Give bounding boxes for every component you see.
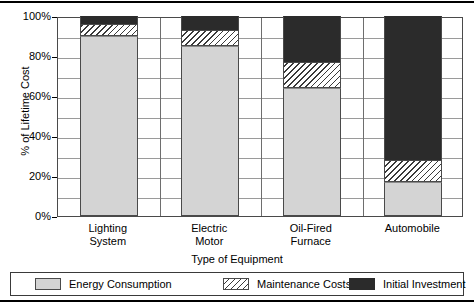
chart-legend: Energy ConsumptionMaintenance CostsIniti… <box>10 272 464 296</box>
legend-label: Maintenance Costs <box>257 278 351 290</box>
legend-label: Energy Consumption <box>69 278 172 290</box>
legend-item-init[interactable]: Initial Investment <box>349 277 466 291</box>
category-separator <box>160 18 161 216</box>
bar-oil-fired-furnace[interactable] <box>283 16 341 216</box>
y-axis-tick-label: 100% <box>5 11 51 22</box>
bar-segment-energy[interactable] <box>80 36 138 216</box>
x-axis-category-label-line: Lighting <box>57 222 159 235</box>
category-separator <box>261 18 262 216</box>
bar-segment-init[interactable] <box>283 16 341 62</box>
y-axis-tick-label: 40% <box>5 131 51 142</box>
x-axis-title: Type of Equipment <box>0 253 474 265</box>
top-divider-rule <box>0 1 474 3</box>
bar-automobile[interactable] <box>384 16 442 216</box>
bar-segment-maint[interactable] <box>181 30 239 46</box>
chart-figure: % of Lifetime Cost 0%20%40%60%80%100% Li… <box>0 0 474 306</box>
y-axis-tick-label: 0% <box>5 211 51 222</box>
x-axis-category-label: LightingSystem <box>57 222 159 248</box>
x-axis-category-label-line: System <box>57 235 159 248</box>
bar-segment-maint[interactable] <box>283 62 341 88</box>
y-axis-tick-mark <box>52 217 57 218</box>
bar-segment-energy[interactable] <box>384 182 442 216</box>
x-axis-category-label-line: Electric <box>159 222 261 235</box>
y-axis-tick-label: 80% <box>5 51 51 62</box>
legend-swatch-init <box>349 278 375 290</box>
x-axis-category-label: ElectricMotor <box>159 222 261 248</box>
x-axis-category-label-line: Furnace <box>260 235 362 248</box>
legend-item-energy[interactable]: Energy Consumption <box>35 277 172 291</box>
bar-segment-maint[interactable] <box>384 160 442 182</box>
bar-segment-maint[interactable] <box>80 24 138 36</box>
bar-segment-energy[interactable] <box>181 46 239 216</box>
legend-item-maint[interactable]: Maintenance Costs <box>223 277 351 291</box>
plot-area <box>57 17 463 217</box>
bar-segment-energy[interactable] <box>283 88 341 216</box>
y-axis-tick-label: 60% <box>5 91 51 102</box>
bar-lighting-system[interactable] <box>80 16 138 216</box>
x-axis-category-label: Oil-FiredFurnace <box>260 222 362 248</box>
bar-segment-init[interactable] <box>181 16 239 30</box>
bottom-divider-rule <box>0 300 474 302</box>
category-separator <box>363 18 364 216</box>
legend-label: Initial Investment <box>383 278 466 290</box>
bar-segment-init[interactable] <box>384 16 442 160</box>
x-axis-category-label: Automobile <box>362 222 464 235</box>
x-axis-category-label-line: Automobile <box>362 222 464 235</box>
y-axis-tick-label: 20% <box>5 171 51 182</box>
bar-segment-init[interactable] <box>80 16 138 24</box>
legend-swatch-energy <box>35 278 61 290</box>
x-axis-category-label-line: Oil-Fired <box>260 222 362 235</box>
legend-swatch-maint <box>223 278 249 290</box>
x-axis-category-label-line: Motor <box>159 235 261 248</box>
bar-electric-motor[interactable] <box>181 16 239 216</box>
